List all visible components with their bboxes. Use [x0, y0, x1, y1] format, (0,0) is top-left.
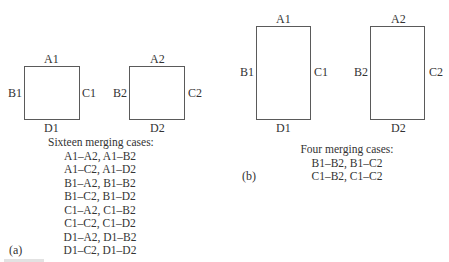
label-b1-top: A1 — [276, 13, 291, 25]
label-b2-right: C2 — [429, 66, 443, 78]
label-a2-right: C2 — [188, 87, 202, 99]
square-a1 — [24, 66, 80, 120]
case-line: B1–C2, B1–D2 — [60, 190, 140, 204]
label-a2-left: B2 — [113, 87, 127, 99]
label-b1-left: B1 — [240, 66, 254, 78]
case-line: C1–B2, C1–C2 — [305, 170, 389, 184]
label-a1-right: C1 — [82, 87, 96, 99]
caption-a-title: Sixteen merging cases: — [48, 136, 153, 150]
case-line: C1–A2, C1–B2 — [60, 204, 140, 218]
square-a2 — [129, 66, 185, 120]
label-b1-bottom: D1 — [276, 122, 291, 134]
label-b2-top: A2 — [391, 13, 406, 25]
case-line: B1–A2, B1–B2 — [60, 177, 140, 191]
panel-b-tag: (b) — [242, 169, 256, 184]
case-line: B1–B2, B1–C2 — [305, 157, 389, 171]
panel-a-tag: (a) — [9, 243, 22, 258]
rect-b2 — [370, 26, 425, 120]
label-a2-top: A2 — [150, 53, 165, 65]
case-line: A1–A2, A1–B2 — [60, 150, 140, 164]
caption-b-title: Four merging cases: — [296, 143, 398, 157]
label-b2-bottom: D2 — [391, 122, 406, 134]
label-a1-bottom: D1 — [44, 122, 59, 134]
case-line: D1–C2, D1–D2 — [60, 244, 140, 258]
label-a1-top: A1 — [44, 53, 59, 65]
case-line: D1–A2, D1–B2 — [60, 231, 140, 245]
label-a2-bottom: D2 — [150, 122, 165, 134]
rect-b1 — [256, 26, 311, 120]
case-line: A1–C2, A1–D2 — [60, 163, 140, 177]
label-a1-left: B1 — [8, 87, 22, 99]
case-line: C1–C2, C1–D2 — [60, 217, 140, 231]
label-b1-right: C1 — [314, 66, 328, 78]
label-b2-left: B2 — [354, 66, 368, 78]
